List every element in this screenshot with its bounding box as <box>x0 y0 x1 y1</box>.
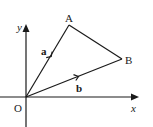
vector-b-label: b <box>76 82 82 94</box>
segment-ab <box>69 25 122 59</box>
vector-a <box>26 25 69 97</box>
x-axis-arrow-icon <box>131 94 139 101</box>
y-axis-arrow-icon <box>23 24 30 32</box>
y-axis-label: y <box>16 21 22 33</box>
vector-b <box>26 59 122 97</box>
point-a-label: A <box>65 12 73 24</box>
point-b-label: B <box>125 54 132 66</box>
vector-diagram: y A a B b O x <box>0 0 153 127</box>
vector-a-label: a <box>41 45 47 57</box>
x-axis-label: x <box>130 102 136 114</box>
origin-label: O <box>14 102 22 114</box>
vector-a-arrow-icon <box>46 52 52 58</box>
